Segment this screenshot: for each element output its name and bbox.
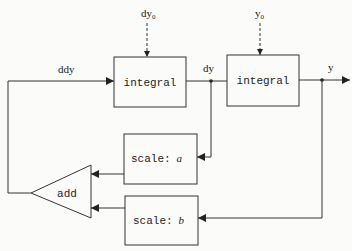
ddy-label: ddy	[58, 63, 75, 75]
scale-b-label: scale:b	[133, 214, 185, 227]
dy0-label: dy0	[141, 7, 156, 21]
integral-block-1[interactable]: integral	[114, 57, 186, 107]
y-label: y	[328, 61, 334, 73]
add-label: add	[57, 188, 77, 200]
integral-1-label: integral	[124, 77, 177, 89]
scale-a-block[interactable]: scale:a	[124, 134, 197, 184]
dy-signal-line: dy	[186, 62, 227, 157]
dy-to-scale-a	[197, 81, 211, 157]
scale-a-label: scale:a	[131, 152, 183, 165]
y0-initial-condition: y0	[255, 7, 265, 55]
y0-label: y0	[255, 7, 265, 21]
dy0-initial-condition: dy0	[141, 7, 156, 57]
integral-block-2[interactable]: integral	[227, 55, 299, 106]
integral-2-label: integral	[237, 75, 290, 87]
dy-label: dy	[203, 62, 215, 74]
scale-b-block[interactable]: scale:b	[125, 196, 198, 245]
add-block[interactable]: add	[31, 165, 91, 218]
block-diagram: dy0 y0 integral integral scale:a scale:b…	[0, 0, 352, 251]
y-to-scale-b	[198, 80, 322, 218]
